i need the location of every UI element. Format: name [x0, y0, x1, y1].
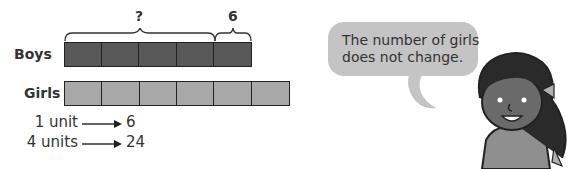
girls-label: Girls [24, 85, 60, 101]
girls-bar [64, 81, 290, 106]
speech-bubble-text: The number of girls does not change. [342, 32, 479, 66]
brace-question-label: ? [135, 8, 143, 24]
equation-1: 1 unit [35, 113, 78, 131]
girls-unit [214, 82, 251, 105]
girls-unit [140, 82, 177, 105]
brace-question [64, 28, 216, 42]
boys-unit [177, 43, 214, 66]
equation-2-right: 24 [126, 133, 145, 151]
equation-1-right: 6 [126, 113, 136, 131]
boys-unit [139, 43, 176, 66]
equation-2-left: 4 units [27, 133, 78, 151]
brace-six [214, 28, 252, 42]
girl-character-icon [460, 48, 575, 169]
boys-unit [214, 43, 251, 66]
speech-line-1: The number of girls [342, 32, 479, 49]
equation-2: 4 units [27, 133, 78, 151]
brace-six-label: 6 [228, 8, 238, 24]
speech-line-2: does not change. [342, 49, 479, 66]
arrow-right-icon [82, 140, 122, 148]
boys-bar [64, 42, 252, 67]
equation-1-left: 1 unit [35, 113, 78, 131]
girls-unit [65, 82, 102, 105]
arrow-right-icon [82, 120, 122, 128]
girls-unit [252, 82, 289, 105]
boys-unit [102, 43, 139, 66]
girls-unit [177, 82, 214, 105]
boys-label: Boys [14, 46, 52, 62]
boys-unit [65, 43, 102, 66]
girls-unit [102, 82, 139, 105]
